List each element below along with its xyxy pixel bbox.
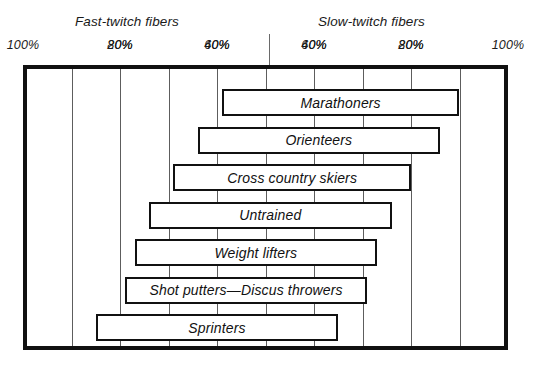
bar-label: Untrained: [239, 207, 301, 223]
plot-area: MarathonersOrienteersCross country skier…: [27, 69, 504, 346]
gridline-10: [72, 69, 73, 346]
slow-twitch-group-title: Slow-twitch fibers: [318, 14, 425, 29]
plot-frame: MarathonersOrienteersCross country skier…: [23, 65, 508, 350]
bar-untrained: Untrained: [149, 202, 392, 229]
bar-label: Orienteers: [285, 132, 352, 148]
bar-label: Cross country skiers: [227, 170, 357, 186]
fast-twitch-group-title: Fast-twitch fibers: [75, 14, 179, 29]
center-axis-tick: [269, 34, 270, 66]
bar-label: Shot putters—Discus throwers: [149, 282, 342, 298]
bar-label: Sprinters: [188, 320, 245, 336]
bar-shot-putters-discus-throwers: Shot putters—Discus throwers: [125, 277, 368, 304]
gridline-20: [120, 69, 121, 346]
bar-sprinters: Sprinters: [96, 314, 339, 341]
bar-label: Marathoners: [301, 95, 381, 111]
x-tick-label-slow-20: 20%: [107, 38, 132, 52]
x-tick-label-slow-60: 60%: [301, 38, 326, 52]
x-tick-label-slow-40: 40%: [204, 38, 229, 52]
x-tick-label-slow-100: 100%: [492, 38, 524, 52]
x-tick-label-fast-100: 100%: [7, 38, 39, 52]
bar-cross-country-skiers: Cross country skiers: [173, 164, 411, 191]
bar-orienteers: Orienteers: [198, 127, 441, 154]
x-tick-label-slow-80: 80%: [398, 38, 423, 52]
fiber-composition-chart: Fast-twitch fibers Slow-twitch fibers 10…: [0, 0, 551, 369]
gridline-90: [460, 69, 461, 346]
bar-weight-lifters: Weight lifters: [135, 239, 378, 266]
bar-label: Weight lifters: [214, 245, 297, 261]
bar-marathoners: Marathoners: [222, 89, 460, 116]
